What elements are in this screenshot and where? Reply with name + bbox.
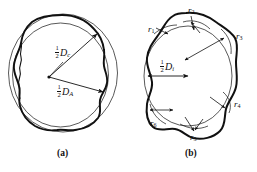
curvature-arc-r5 [180,124,208,128]
r1-subscript: 1 [152,28,155,34]
caption-panel-b: (b) [185,148,197,158]
leader-dc [50,62,63,76]
caption-panel-a: (a) [57,148,68,158]
label-r6: r6 [150,119,157,128]
fraction-one-half: 1 2 [160,59,164,73]
label-half-da: 1 2 DA [57,84,73,98]
label-r2: r2 [188,6,195,15]
panel-a: 1 2 Dc 1 2 DA (a) [0,0,128,172]
figure-root: 1 2 Dc 1 2 DA (a) [0,0,257,172]
label-r4: r4 [234,100,241,109]
label-r1: r1 [148,25,155,34]
curvature-arrow-r5 [185,117,194,131]
label-subscript: A [69,90,73,97]
label-subscript: i [172,65,174,72]
label-subscript: c [67,51,70,58]
fraction-one-half: 1 2 [57,84,61,98]
fraction-denominator: 2 [57,91,61,99]
fraction-one-half: 1 2 [55,45,59,59]
curvature-arc-r2 [183,21,210,29]
r2-subscript: 2 [192,9,195,15]
label-half-di: 1 2 Di [160,59,174,73]
label-r5: r5 [190,133,197,142]
r3-subscript: 3 [240,35,243,41]
fraction-numerator: 1 [55,45,59,52]
label-r3: r3 [236,32,243,41]
fraction-numerator: 1 [57,84,61,91]
r4-subscript: 4 [238,103,241,109]
r6-subscript: 6 [154,122,157,128]
curvature-arrow-r4 [210,97,225,108]
fraction-numerator: 1 [160,59,164,66]
inscribed-circle [13,23,109,127]
fraction-denominator: 2 [55,52,59,60]
fraction-denominator: 2 [160,66,164,74]
label-half-dc: 1 2 Dc [55,45,70,59]
r5-subscript: 5 [194,136,197,142]
curvature-arrow-r3 [185,38,224,60]
panel-b: 1 2 Di r1 r2 r3 r4 r5 r6 (b) [128,0,257,172]
